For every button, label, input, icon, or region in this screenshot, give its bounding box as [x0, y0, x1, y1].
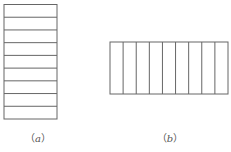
caption-open-paren: （	[25, 133, 35, 144]
caption-close-paren: ）	[41, 133, 51, 144]
figure-b-vertical-strips	[110, 42, 228, 94]
figure-a-horizontal-strips	[4, 5, 57, 120]
caption-close-paren: ）	[173, 133, 183, 144]
caption-open-paren: （	[157, 133, 167, 144]
outer-rectangle	[4, 5, 57, 120]
figure-a-caption: （a）	[25, 130, 51, 145]
outer-rectangle	[110, 42, 228, 94]
figure-b-caption: （b）	[157, 130, 183, 145]
